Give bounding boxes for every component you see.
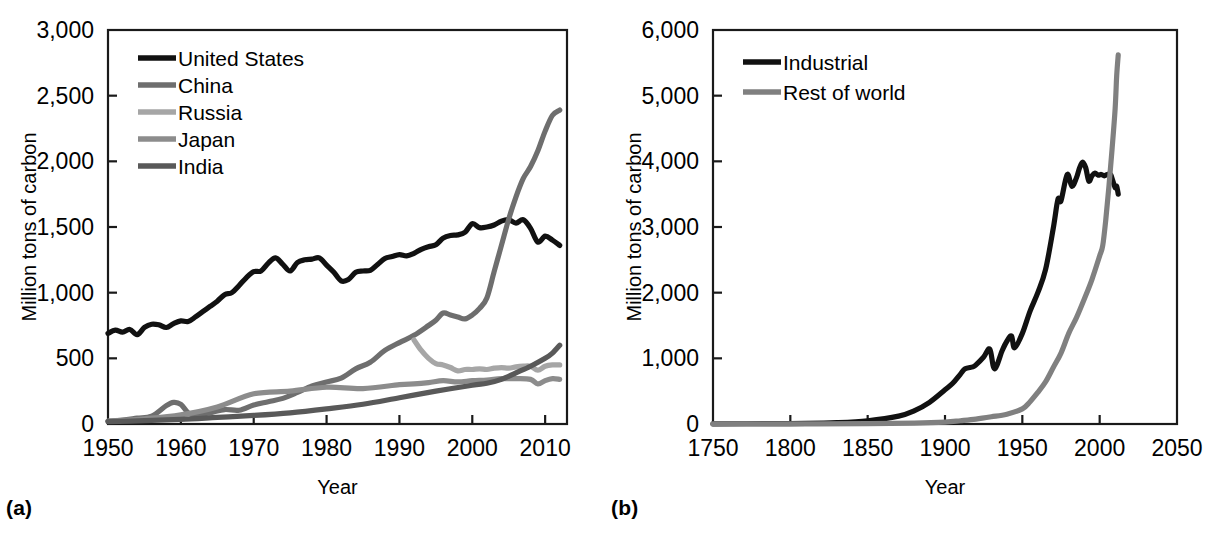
y-tick-label: 2,000 [641,280,699,306]
y-tick-label: 5,000 [641,83,699,109]
y-tick-label: 500 [56,345,94,371]
x-tick-label: 2050 [1151,435,1202,461]
x-tick-label: 2000 [447,435,498,461]
y-tick-label: 0 [686,411,699,437]
panel-a-label: (a) [6,496,32,520]
x-tick-label: 1950 [997,435,1048,461]
x-axis-title: Year [925,476,966,498]
y-tick-label: 2,500 [36,83,94,109]
plot-frame [108,30,567,424]
x-tick-label: 1950 [82,435,133,461]
chart-b-canvas: 01,0002,0003,0004,0005,0006,000175018001… [605,0,1210,536]
legend-label-india: India [178,155,224,178]
y-tick-label: 3,000 [36,17,94,43]
legend-label-japan: Japan [178,128,235,151]
figure-root: 05001,0001,5002,0002,5003,00019501960197… [0,0,1210,536]
x-tick-label: 1750 [687,435,738,461]
legend-label-china: China [178,74,233,97]
chart-panel-b: 01,0002,0003,0004,0005,0006,000175018001… [605,0,1210,536]
y-tick-label: 0 [81,411,94,437]
x-tick-label: 1800 [765,435,816,461]
y-tick-label: 1,500 [36,214,94,240]
y-tick-label: 1,000 [36,280,94,306]
y-tick-label: 3,000 [641,214,699,240]
x-tick-label: 2010 [520,435,571,461]
x-axis-title: Year [317,476,358,498]
y-axis-title: Million tons of carbon [623,133,645,322]
legend-label-united-states: United States [178,47,304,70]
legend-label-industrial: Industrial [783,51,868,74]
x-tick-label: 1850 [842,435,893,461]
y-tick-label: 2,000 [36,148,94,174]
x-tick-label: 1900 [919,435,970,461]
chart-a-canvas: 05001,0001,5002,0002,5003,00019501960197… [0,0,605,536]
legend-label-rest-of-world: Rest of world [783,81,906,104]
y-tick-label: 4,000 [641,148,699,174]
x-tick-label: 2000 [1074,435,1125,461]
chart-panel-a: 05001,0001,5002,0002,5003,00019501960197… [0,0,605,536]
panel-b-label: (b) [611,496,638,520]
x-tick-label: 1960 [155,435,206,461]
legend-label-russia: Russia [178,101,243,124]
y-tick-label: 1,000 [641,345,699,371]
x-tick-label: 1990 [374,435,425,461]
x-tick-label: 1980 [301,435,352,461]
y-tick-label: 6,000 [641,17,699,43]
x-tick-label: 1970 [228,435,279,461]
y-axis-title: Million tons of carbon [18,133,40,322]
